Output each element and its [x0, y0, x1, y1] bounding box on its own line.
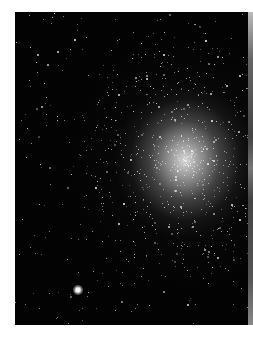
star: [163, 189, 164, 190]
star: [183, 140, 184, 141]
star: [44, 205, 45, 206]
star: [206, 204, 207, 205]
star: [150, 97, 151, 98]
star: [235, 182, 236, 183]
star: [118, 94, 120, 96]
star: [202, 173, 203, 174]
star: [212, 48, 213, 49]
star: [121, 301, 123, 303]
star: [163, 86, 164, 87]
star: [176, 108, 177, 109]
star: [133, 192, 134, 193]
star: [121, 154, 122, 155]
star: [210, 93, 212, 95]
star: [122, 285, 123, 286]
star: [226, 85, 228, 87]
star: [107, 92, 108, 93]
star: [238, 131, 240, 133]
star: [171, 150, 172, 151]
star: [158, 249, 159, 250]
star: [109, 192, 110, 193]
star: [187, 246, 188, 247]
star: [170, 212, 171, 213]
star: [175, 121, 176, 122]
star: [181, 208, 182, 209]
star: [146, 176, 147, 177]
star: [188, 47, 189, 48]
star: [245, 213, 246, 214]
star: [112, 202, 113, 203]
star: [202, 93, 203, 94]
star: [130, 156, 131, 157]
star: [153, 88, 154, 89]
star: [196, 172, 197, 173]
star: [171, 111, 173, 113]
star: [152, 177, 153, 178]
star: [177, 229, 178, 230]
star: [112, 82, 113, 83]
star: [183, 108, 185, 110]
star: [217, 48, 218, 49]
star: [239, 75, 241, 77]
star: [223, 173, 224, 174]
star: [131, 105, 132, 106]
star: [213, 230, 214, 231]
star: [228, 166, 229, 167]
star: [203, 189, 204, 190]
star: [125, 133, 126, 134]
star: [33, 293, 34, 294]
star: [244, 188, 245, 189]
star: [44, 83, 45, 84]
star: [140, 169, 141, 170]
star: [150, 86, 151, 87]
star: [183, 203, 184, 204]
star: [186, 211, 187, 212]
star: [204, 87, 205, 88]
star: [159, 183, 161, 185]
star: [86, 195, 87, 196]
star: [240, 111, 241, 112]
star: [219, 188, 220, 189]
star: [88, 75, 89, 76]
star: [204, 179, 205, 180]
star: [152, 225, 153, 226]
star: [229, 53, 230, 54]
star: [197, 185, 198, 186]
star: [208, 283, 209, 284]
star: [146, 78, 148, 80]
star: [208, 53, 209, 54]
star: [222, 218, 223, 219]
star: [41, 167, 42, 168]
star: [126, 259, 127, 260]
star: [178, 71, 179, 72]
star: [182, 263, 183, 264]
star: [143, 200, 144, 201]
star: [225, 268, 226, 269]
star: [84, 120, 85, 121]
star: [207, 107, 208, 108]
star: [96, 127, 97, 128]
star: [117, 134, 119, 136]
star: [236, 135, 237, 136]
star: [122, 272, 123, 273]
star: [84, 207, 85, 208]
star: [237, 112, 238, 113]
star: [19, 139, 20, 140]
star: [91, 149, 92, 150]
star: [171, 196, 172, 197]
star: [174, 136, 175, 137]
star: [171, 149, 172, 150]
star: [86, 150, 87, 151]
star: [193, 88, 194, 89]
star: [158, 153, 159, 154]
star: [141, 79, 142, 80]
star: [195, 304, 196, 305]
star: [105, 150, 106, 151]
star: [208, 201, 209, 202]
star: [146, 212, 147, 213]
star: [176, 94, 177, 95]
star: [186, 170, 187, 171]
star: [126, 206, 127, 207]
star: [198, 106, 199, 107]
star: [149, 155, 150, 156]
